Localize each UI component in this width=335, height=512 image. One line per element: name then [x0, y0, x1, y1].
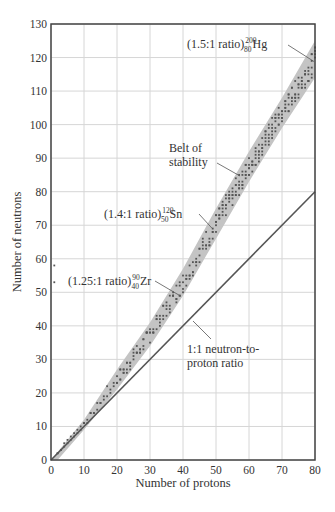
nuclide-dot [255, 151, 257, 153]
nuclide-dot [288, 104, 290, 106]
nuclide-dot [73, 432, 75, 434]
y-tick-label: 50 [36, 286, 48, 298]
nuclide-dot [291, 97, 293, 99]
nuclide-dot [106, 395, 108, 397]
nuclide-dot [228, 201, 230, 203]
nuclide-dot [265, 144, 267, 146]
nuclide-dot [232, 191, 234, 193]
nuclide-dot [301, 87, 303, 89]
nuclide-dot [139, 348, 141, 350]
nuclide-dot [235, 184, 237, 186]
nuclide-dot [225, 194, 227, 196]
nuclide-dot [189, 275, 191, 277]
nuclide-dot [222, 201, 224, 203]
nuclide-dot [248, 174, 250, 176]
nuclide-dot [80, 426, 82, 428]
y-tick-label: 80 [36, 186, 48, 198]
nuclide-dot [199, 255, 201, 257]
x-tick-label: 30 [144, 464, 156, 476]
nuclide-dot [100, 402, 102, 404]
nuclide-dot [96, 409, 98, 411]
nuclide-dot [222, 204, 224, 206]
nuclide-dot [103, 399, 105, 401]
nuclide-dot [245, 164, 247, 166]
nuclide-dot [301, 80, 303, 82]
nuclide-dot [225, 198, 227, 200]
nuclide-dot [166, 301, 168, 303]
nuclide-dot [258, 144, 260, 146]
nuclide-dot [159, 325, 161, 327]
annotation-sn: (1.4:1 ratio)12050Sn [104, 206, 182, 224]
nuclide-dot [298, 77, 300, 79]
nuclide-dot [281, 110, 283, 112]
nuclide-dot [179, 281, 181, 283]
nuclide-dot [166, 315, 168, 317]
nuclide-dot [261, 144, 263, 146]
nuclide-dot [205, 231, 207, 233]
nuclide-dot [268, 124, 270, 126]
nuclide-dot [235, 191, 237, 193]
nuclide-dot [311, 77, 313, 79]
nuclide-dot [284, 104, 286, 106]
nuclide-dot [288, 94, 290, 96]
nuclide-dot [271, 134, 273, 136]
nuclide-dot [133, 355, 135, 357]
nuclide-dot [136, 352, 138, 354]
x-tick-label: 10 [78, 464, 90, 476]
nuclide-dot [179, 285, 181, 287]
nuclide-dot [238, 194, 240, 196]
nuclide-dot [156, 315, 158, 317]
nuclide-dot [275, 130, 277, 132]
y-tick-label: 60 [36, 253, 48, 265]
nuclide-dot [294, 80, 296, 82]
nuclide-dot [242, 187, 244, 189]
nuclide-dot [308, 70, 310, 72]
nuclide-dot [284, 110, 286, 112]
nuclide-dot [162, 305, 164, 307]
nuclide-dot [291, 100, 293, 102]
nuclide-dot [77, 429, 79, 431]
y-tick-label: 130 [30, 18, 48, 30]
nuclide-dot [182, 291, 184, 293]
nuclide-dot [93, 412, 95, 414]
nuclide-dot [222, 211, 224, 213]
nuclide-dot [195, 265, 197, 267]
svg-text:(1.25:1 ratio)9040Zr: (1.25:1 ratio)9040Zr [68, 273, 151, 291]
nuclide-dot [215, 221, 217, 223]
nuclide-dot [288, 97, 290, 99]
nuclide-dot [242, 174, 244, 176]
nuclide-dot [202, 244, 204, 246]
nuclide-dot [209, 238, 211, 240]
y-axis-ticks: 0102030405060708090100110120130 [30, 18, 48, 466]
nuclide-dot [242, 181, 244, 183]
nuclide-dot [202, 238, 204, 240]
nuclide-dot [146, 332, 148, 334]
nuclide-dot [103, 395, 105, 397]
nuclide-dot [265, 140, 267, 142]
x-tick-label: 70 [276, 464, 288, 476]
y-tick-label: 70 [36, 219, 48, 231]
nuclide-dot [215, 231, 217, 233]
nuclide-dot [209, 244, 211, 246]
nuclide-dot [189, 278, 191, 280]
nuclide-dot [192, 261, 194, 263]
nuclide-dot [169, 312, 171, 314]
nuclide-dot [304, 87, 306, 89]
nuclide-dot [156, 318, 158, 320]
nuclide-dot [255, 164, 257, 166]
nuclide-dot [228, 191, 230, 193]
nuclide-dot [53, 281, 55, 283]
nuclide-dot [195, 261, 197, 263]
nuclide-dot [136, 345, 138, 347]
nuclide-dot [222, 208, 224, 210]
nuclide-dot [232, 194, 234, 196]
nuclide-dot [123, 372, 125, 374]
nuclide-dot [258, 157, 260, 159]
nuclide-dot [129, 365, 131, 367]
nuclide-dot [242, 184, 244, 186]
nuclide-dot [281, 120, 283, 122]
nuclide-dot [159, 315, 161, 317]
nuclide-dot [294, 94, 296, 96]
nuclide-dot [232, 187, 234, 189]
nuclide-dot [308, 67, 310, 69]
